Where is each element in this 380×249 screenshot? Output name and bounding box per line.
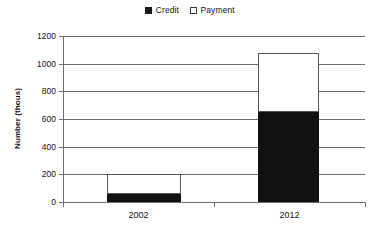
- y-axis-tick: [59, 119, 63, 120]
- y-axis-tick-label: 0: [10, 198, 56, 207]
- y-axis-tick: [59, 147, 63, 148]
- y-axis-tick-label: 1000: [10, 60, 56, 69]
- legend-swatch-payment-icon: [190, 7, 197, 14]
- legend-item-payment: Payment: [190, 6, 235, 15]
- y-axis-tick-label: 1200: [10, 32, 56, 41]
- x-axis-tick: [63, 202, 64, 207]
- gridline: [63, 91, 365, 92]
- gridline: [63, 64, 365, 65]
- y-axis-tick-label: 200: [10, 170, 56, 179]
- y-axis-tick-label: 800: [10, 87, 56, 96]
- y-axis-tick: [59, 91, 63, 92]
- legend-swatch-credit-icon: [145, 7, 152, 14]
- x-axis-tick: [365, 202, 366, 207]
- x-axis-label-2012: 2012: [230, 211, 350, 220]
- bar-segment-payment-2002: [107, 174, 181, 193]
- bar-2002: [107, 174, 181, 202]
- legend-label-payment: Payment: [201, 6, 235, 15]
- gridline: [63, 119, 365, 120]
- gridline: [63, 36, 365, 37]
- stacked-bar-chart: Credit Payment Number (thous) 1200100080…: [0, 0, 380, 249]
- y-axis-tick-label: 400: [10, 143, 56, 152]
- bar-segment-payment-2012: [258, 53, 319, 112]
- chart-legend: Credit Payment: [0, 6, 380, 15]
- plot-area: 120010008006004002000: [63, 36, 365, 202]
- y-axis-tick: [59, 64, 63, 65]
- x-axis-tick: [214, 202, 215, 207]
- bar-2012: [258, 53, 319, 202]
- legend-item-credit: Credit: [145, 6, 179, 15]
- bar-segment-credit-2002: [107, 194, 181, 202]
- y-axis-tick-label: 600: [10, 115, 56, 124]
- legend-label-credit: Credit: [156, 6, 179, 15]
- gridline: [63, 147, 365, 148]
- y-axis-tick: [59, 174, 63, 175]
- y-axis-tick: [59, 36, 63, 37]
- bar-segment-credit-2012: [258, 112, 319, 202]
- x-axis-label-2002: 2002: [79, 211, 199, 220]
